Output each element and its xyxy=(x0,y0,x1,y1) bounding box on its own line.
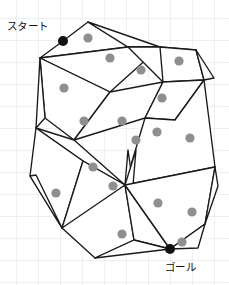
node-dot-13 xyxy=(108,181,117,190)
diagram-canvas: スタート ゴール xyxy=(0,0,229,285)
start-label: スタート xyxy=(7,21,49,32)
node-dot-2 xyxy=(136,65,145,74)
node-dot-10 xyxy=(185,133,194,142)
node-dot-0 xyxy=(83,33,92,42)
node-dot-4 xyxy=(59,83,68,92)
node-dot-17 xyxy=(177,237,186,246)
node-dot-9 xyxy=(131,135,140,144)
node-dot-14 xyxy=(153,198,162,207)
start-point-marker xyxy=(58,36,68,46)
goal-point-marker xyxy=(165,244,175,254)
node-dot-11 xyxy=(88,162,97,171)
node-dot-16 xyxy=(117,229,126,238)
node-dot-15 xyxy=(187,207,196,216)
node-dot-8 xyxy=(152,127,161,136)
node-dot-12 xyxy=(51,188,60,197)
node-dot-7 xyxy=(117,116,126,125)
node-dot-3 xyxy=(174,56,183,65)
node-dot-5 xyxy=(157,93,166,102)
goal-label: ゴール xyxy=(165,262,196,273)
node-dot-1 xyxy=(105,53,114,62)
polygon-figure xyxy=(0,0,229,285)
node-dot-6 xyxy=(79,116,88,125)
